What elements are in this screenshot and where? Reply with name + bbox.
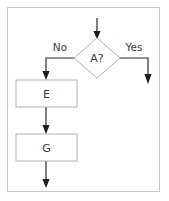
arrowhead-g-out [42, 179, 49, 188]
decision-a-label: A? [90, 52, 104, 65]
node-decision-a[interactable]: A? [74, 38, 120, 78]
process-g-label: G [42, 142, 51, 155]
connector-entry-to-decision [93, 18, 100, 39]
connector-e-to-g [42, 107, 49, 134]
connector-yes-branch [120, 58, 152, 84]
flowchart-canvas: A? E G No Yes [0, 0, 169, 201]
node-process-g[interactable]: G [16, 134, 77, 161]
edge-label-no: No [53, 41, 67, 53]
node-process-e[interactable]: E [16, 80, 77, 107]
edge-label-yes: Yes [125, 41, 143, 53]
arrowhead-no-branch [42, 71, 49, 80]
process-e-label: E [43, 88, 50, 101]
connector-g-out [42, 161, 49, 188]
arrowhead-yes-branch [144, 74, 151, 84]
connector-no-branch [42, 58, 74, 80]
flowchart-diagram: A? E G No Yes [0, 0, 169, 201]
arrowhead-e-to-g [42, 125, 49, 134]
